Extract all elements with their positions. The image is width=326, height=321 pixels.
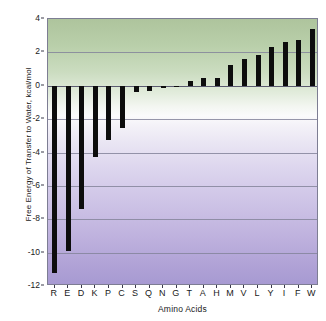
x-tick-label-K: K xyxy=(91,288,97,298)
x-tick-label-V: V xyxy=(240,288,246,298)
x-tick-label-Y: Y xyxy=(268,288,274,298)
y-tick-label: -6 xyxy=(32,180,40,190)
x-tick-label-C: C xyxy=(118,288,125,298)
x-tick-mark xyxy=(284,285,285,288)
x-tick-mark xyxy=(135,285,136,288)
bar-A xyxy=(201,78,206,86)
bar-D xyxy=(79,86,84,209)
x-tick-mark xyxy=(54,285,55,288)
x-tick-mark xyxy=(189,285,190,288)
bar-series xyxy=(48,19,317,284)
bar-Q xyxy=(147,86,152,91)
y-tick-label: 2 xyxy=(35,46,40,56)
x-tick-label-F: F xyxy=(295,288,301,298)
y-tick-label: -12 xyxy=(28,280,40,290)
x-tick-label-A: A xyxy=(200,288,206,298)
x-tick-mark xyxy=(216,285,217,288)
y-tick-mark xyxy=(41,84,44,85)
x-tick-label-T: T xyxy=(187,288,193,298)
x-tick-mark xyxy=(149,285,150,288)
bar-F xyxy=(296,40,301,86)
y-tick-mark xyxy=(41,151,44,152)
x-tick-mark xyxy=(257,285,258,288)
x-tick-label-L: L xyxy=(255,288,260,298)
y-tick-label: 0 xyxy=(35,80,40,90)
x-tick-label-G: G xyxy=(172,288,179,298)
x-tick-label-I: I xyxy=(283,288,286,298)
chart-figure: Free Energy of Transfer to Water, kcal/m… xyxy=(0,0,326,321)
bar-H xyxy=(215,78,220,86)
y-tick-mark xyxy=(41,18,44,19)
x-tick-label-S: S xyxy=(132,288,138,298)
y-tick-label: 4 xyxy=(35,13,40,23)
x-tick-mark xyxy=(203,285,204,288)
y-tick-label: -10 xyxy=(28,247,40,257)
x-tick-mark xyxy=(94,285,95,288)
y-tick-mark xyxy=(41,251,44,252)
y-tick-mark xyxy=(41,285,44,286)
bar-S xyxy=(134,86,139,93)
bar-K xyxy=(93,86,98,157)
x-tick-mark xyxy=(81,285,82,288)
x-tick-label-N: N xyxy=(159,288,166,298)
x-tick-label-M: M xyxy=(226,288,234,298)
bar-M xyxy=(228,65,233,86)
x-tick-mark xyxy=(230,285,231,288)
x-axis-label: Amino Acids xyxy=(47,304,318,314)
y-tick-label: -2 xyxy=(32,113,40,123)
x-tick-label-H: H xyxy=(213,288,220,298)
x-tick-label-E: E xyxy=(64,288,70,298)
x-tick-mark xyxy=(122,285,123,288)
bar-P xyxy=(106,86,111,140)
y-tick-label: -4 xyxy=(32,147,40,157)
y-tick-label: -8 xyxy=(32,213,40,223)
y-tick-mark xyxy=(41,218,44,219)
x-tick-label-P: P xyxy=(105,288,111,298)
bar-Y xyxy=(269,47,274,85)
x-tick-label-Q: Q xyxy=(145,288,152,298)
x-axis-tick-labels: REDKPCSQNGTAHMVLYIFW xyxy=(47,288,318,302)
bar-V xyxy=(242,59,247,86)
bar-I xyxy=(283,42,288,86)
bar-G xyxy=(174,86,179,87)
bar-N xyxy=(161,86,166,89)
x-tick-mark xyxy=(243,285,244,288)
x-tick-mark xyxy=(298,285,299,288)
y-tick-mark xyxy=(41,51,44,52)
y-tick-mark xyxy=(41,118,44,119)
bar-R xyxy=(52,86,57,273)
x-tick-mark xyxy=(311,285,312,288)
bar-W xyxy=(310,29,315,86)
x-tick-label-W: W xyxy=(307,288,316,298)
bar-E xyxy=(66,86,71,251)
x-tick-label-R: R xyxy=(51,288,58,298)
bar-C xyxy=(120,86,125,129)
bar-T xyxy=(188,81,193,86)
y-tick-mark xyxy=(41,184,44,185)
x-tick-mark xyxy=(162,285,163,288)
x-tick-mark xyxy=(67,285,68,288)
x-tick-mark xyxy=(271,285,272,288)
plot-area xyxy=(47,18,318,285)
x-tick-mark xyxy=(176,285,177,288)
y-axis-tick-labels: 420-2-4-6-8-10-12 xyxy=(18,18,44,285)
bar-L xyxy=(256,55,261,86)
x-tick-label-D: D xyxy=(78,288,85,298)
x-tick-mark xyxy=(108,285,109,288)
